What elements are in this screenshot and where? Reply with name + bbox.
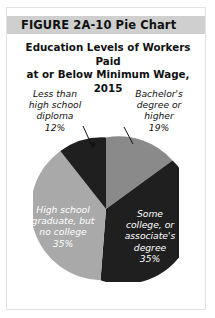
callout-less-than-hs-line-2: high school <box>15 99 95 110</box>
slice-label-hs-graduate-line-3: no college <box>19 226 107 237</box>
slice-label-hs-graduate-line-1: High school <box>19 204 107 215</box>
callout-less-than-hs-line-3: diploma <box>15 110 95 121</box>
slice-label-hs-graduate-line-2: graduate, but <box>19 215 107 226</box>
callout-less-than-hs-line-1: Less than <box>15 88 95 99</box>
callout-bachelors-line-1: Bachelor's <box>119 88 199 99</box>
callout-bachelors-line-2: degree or <box>119 99 199 110</box>
callout-bachelors-line-3: higher <box>119 110 199 121</box>
slice-label-some-college: Some college, or associate's degree 35% <box>107 208 193 264</box>
slice-label-hs-graduate: High school graduate, but no college 35% <box>19 204 107 249</box>
figure-card: FIGURE 2A-10 Pie Chart Education Levels … <box>6 7 206 310</box>
callout-bachelors-value: 19% <box>119 122 199 133</box>
slice-label-hs-graduate-value: 35% <box>19 238 107 249</box>
pie-chart: Less than high school diploma 12% Bachel… <box>7 8 205 309</box>
slice-label-some-college-line-2: college, or <box>107 219 193 230</box>
callout-less-than-hs: Less than high school diploma 12% <box>15 88 95 133</box>
callout-bachelors: Bachelor's degree or higher 19% <box>119 88 199 133</box>
slice-label-some-college-line-3: associate's <box>107 230 193 241</box>
slice-label-some-college-value: 35% <box>107 253 193 264</box>
slice-label-some-college-line-4: degree <box>107 242 193 253</box>
callout-less-than-hs-value: 12% <box>15 122 95 133</box>
slice-label-some-college-line-1: Some <box>107 208 193 219</box>
